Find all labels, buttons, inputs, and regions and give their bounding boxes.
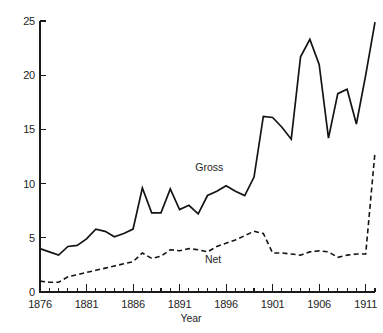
chart-container: 0510152025 18761881188618911896190119061… (0, 0, 383, 333)
chart-series (40, 22, 375, 282)
y-tick-label: 15 (23, 123, 35, 135)
x-axis-ticks (40, 284, 375, 292)
x-axis-title: Year (180, 312, 202, 324)
series-label-gross: Gross (195, 161, 223, 173)
x-tick-label: 1881 (75, 298, 99, 310)
line-chart: 0510152025 18761881188618911896190119061… (0, 0, 383, 333)
y-tick-label: 25 (23, 15, 35, 27)
y-tick-label: 10 (23, 178, 35, 190)
series-line-gross (40, 22, 375, 255)
x-tick-label: 1876 (28, 298, 52, 310)
x-tick-label: 1906 (307, 298, 331, 310)
x-tick-label: 1886 (121, 298, 145, 310)
y-tick-label: 0 (29, 286, 35, 298)
x-tick-label: 1901 (261, 298, 285, 310)
x-tick-label: 1896 (214, 298, 238, 310)
y-axis-tick-labels: 0510152025 (23, 15, 35, 298)
series-label-net: Net (205, 253, 221, 265)
x-tick-label: 1891 (168, 298, 192, 310)
x-tick-label: 1911 (354, 298, 377, 310)
y-tick-label: 20 (23, 69, 35, 81)
x-axis-tick-labels: 18761881188618911896190119061911 (28, 298, 377, 310)
y-tick-label: 5 (29, 232, 35, 244)
y-axis-ticks (40, 21, 46, 292)
